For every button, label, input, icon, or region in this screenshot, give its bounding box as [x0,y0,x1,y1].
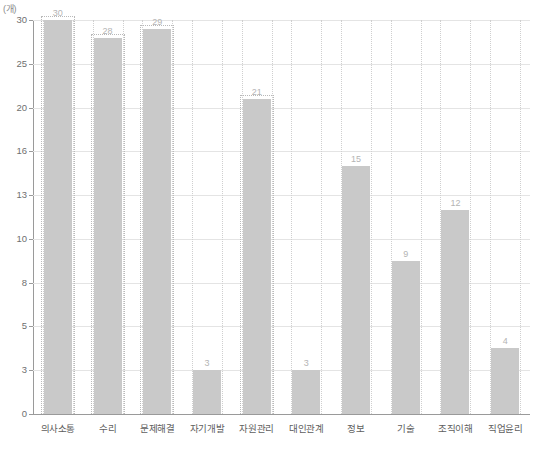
bar-value-label: 9 [403,249,408,259]
bar[interactable] [292,370,320,414]
bar[interactable] [441,210,469,414]
bar-rectangle[interactable] [392,261,420,414]
bar-value-label: 4 [503,336,508,346]
y-axis-tick-label: 0 [0,408,27,419]
y-axis-tick-label: 13 [0,189,27,200]
bar-rectangle[interactable] [441,210,469,414]
x-axis-category-label: 직업윤리 [480,421,530,435]
y-axis-tick-mark [29,414,33,415]
highlight-box[interactable] [240,95,274,414]
y-axis-tick-mark [29,20,33,21]
category-guide-line [371,20,372,414]
bar[interactable] [342,166,370,414]
x-axis-category-label: 기술 [381,421,431,435]
y-axis-tick-mark [29,370,33,371]
category-guide-line [222,20,223,414]
y-axis-tick-label: 25 [0,58,27,69]
x-axis-category-label: 문제해결 [132,421,182,435]
x-axis-category-label: 자원관리 [232,421,282,435]
x-axis-category-label: 의사소통 [33,421,83,435]
bar-chart: (개) 3028293213159124 0358101316202530 의사… [0,0,538,453]
y-axis-tick-mark [29,239,33,240]
bar-value-label: 3 [204,358,209,368]
y-axis-tick-mark [29,64,33,65]
bar[interactable] [392,261,420,414]
y-axis-tick-label: 8 [0,277,27,288]
plot-area: 3028293213159124 [33,20,530,414]
y-axis-tick-mark [29,195,33,196]
y-axis-tick-label: 20 [0,102,27,113]
bar-value-label: 15 [351,154,361,164]
y-axis-tick-mark [29,326,33,327]
bar[interactable] [193,370,221,414]
highlight-box[interactable] [140,25,174,414]
bar-value-label: 12 [450,198,460,208]
x-axis-category-label: 정보 [331,421,381,435]
x-axis-category-label: 조직이해 [431,421,481,435]
category-guide-line [421,20,422,414]
x-axis-category-label: 자기개발 [182,421,232,435]
category-guide-line [470,20,471,414]
y-axis-tick-label: 5 [0,320,27,331]
highlight-box[interactable] [41,16,75,414]
x-axis-category-label: 대인관계 [282,421,332,435]
gridline [33,20,530,21]
y-axis-tick-label: 16 [0,145,27,156]
category-guide-line [192,20,193,414]
y-axis-tick-label: 10 [0,233,27,244]
bar-rectangle[interactable] [491,348,519,414]
y-axis-tick-label: 30 [0,14,27,25]
y-axis-tick-mark [29,283,33,284]
y-axis-tick-mark [29,108,33,109]
category-guide-line [291,20,292,414]
bar[interactable] [491,348,519,414]
x-axis-category-label: 수리 [83,421,133,435]
category-guide-line [321,20,322,414]
bar-rectangle[interactable] [193,370,221,414]
bar-value-label: 3 [304,358,309,368]
y-axis-tick-mark [29,151,33,152]
y-axis-tick-label: 3 [0,364,27,375]
x-axis-line [33,414,530,415]
bar-rectangle[interactable] [342,166,370,414]
highlight-box[interactable] [91,34,125,414]
category-guide-line [520,20,521,414]
bar-rectangle[interactable] [292,370,320,414]
